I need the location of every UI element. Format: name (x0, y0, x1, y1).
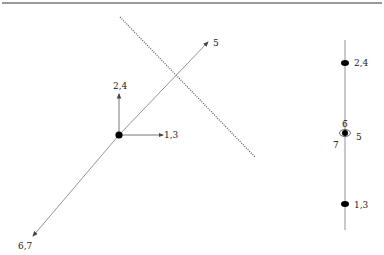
point-2-4 (341, 60, 349, 66)
label-2-4: 2,4 (113, 81, 128, 91)
diagram-canvas: 2,4 1,3 5 6,7 2,4 5 6̄ 7̄ 1,3 (0, 0, 384, 255)
point-7-label: 7̄ (333, 140, 339, 150)
point-2-4-label: 2,4 (354, 58, 369, 68)
label-5: 5 (213, 38, 219, 48)
point-5 (342, 130, 348, 136)
left-coordinate-system: 2,4 1,3 5 6,7 (18, 38, 219, 251)
origin-dot (115, 131, 122, 138)
diag-arrow-up (119, 42, 208, 135)
point-1-3 (341, 201, 349, 207)
point-5-label: 5 (356, 132, 362, 142)
right-number-line: 2,4 5 6̄ 7̄ 1,3 (333, 40, 369, 230)
dotted-hyperplane (120, 17, 255, 157)
label-6-7: 6,7 (18, 241, 33, 251)
point-1-3-label: 1,3 (354, 200, 369, 210)
label-1-3: 1,3 (164, 130, 179, 140)
point-6-label: 6̄ (342, 119, 348, 129)
diag-arrow-down (33, 135, 119, 236)
